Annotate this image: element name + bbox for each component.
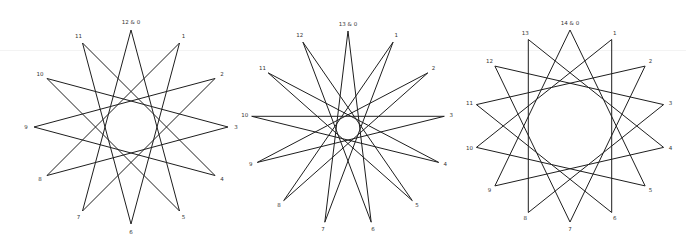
- vertex-label: 5: [415, 202, 419, 208]
- vertex-labels: 14 & 012345678910111213: [466, 20, 673, 232]
- star-outline: [252, 31, 445, 222]
- vertex-label: 2: [649, 58, 653, 64]
- vertex-label: 8: [38, 176, 42, 182]
- star-outline: [34, 30, 228, 224]
- vertex-label-top: 14 & 0: [561, 20, 580, 26]
- vertex-label: 8: [277, 202, 281, 208]
- vertex-label: 3: [234, 124, 238, 130]
- vertex-label: 1: [395, 32, 399, 38]
- star-outline: [476, 30, 663, 222]
- vertex-label: 7: [321, 226, 325, 232]
- vertex-label: 10: [466, 145, 473, 151]
- vertex-label: 6: [129, 229, 133, 235]
- vertex-label: 9: [249, 161, 253, 167]
- vertex-label: 1: [613, 30, 617, 36]
- vertex-label: 12: [296, 32, 303, 38]
- star-polygon-12-point: 12 & 01234567891011: [24, 19, 238, 235]
- vertex-label: 7: [568, 226, 572, 232]
- vertex-label: 2: [432, 65, 436, 71]
- vertex-label: 10: [241, 112, 248, 118]
- vertex-label: 6: [613, 215, 617, 221]
- star-polygon-14-point: 14 & 012345678910111213: [466, 20, 673, 232]
- vertex-label-top: 12 & 0: [122, 19, 141, 25]
- vertex-label: 4: [443, 161, 447, 167]
- vertex-label: 10: [37, 71, 44, 77]
- star-polygon-13-point: 13 & 0123456789101112: [241, 21, 453, 232]
- vertex-label: 4: [669, 145, 673, 151]
- vertex-label: 1: [182, 33, 186, 39]
- vertex-label: 11: [466, 100, 473, 106]
- vertex-label: 3: [449, 112, 453, 118]
- vertex-label: 7: [77, 214, 81, 220]
- vertex-label: 12: [486, 58, 493, 64]
- vertex-label: 4: [220, 176, 224, 182]
- vertex-label: 9: [24, 124, 28, 130]
- vertex-label: 11: [259, 65, 266, 71]
- vertex-label: 3: [669, 100, 673, 106]
- vertex-label: 5: [649, 187, 653, 193]
- vertex-label: 2: [220, 71, 224, 77]
- vertex-label: 11: [75, 33, 82, 39]
- vertex-labels: 12 & 01234567891011: [24, 19, 238, 235]
- star-polygon-diagram: 12 & 01234567891011 13 & 012345678910111…: [0, 0, 686, 248]
- vertex-label: 5: [182, 214, 186, 220]
- vertex-label-top: 13 & 0: [339, 21, 358, 27]
- vertex-label: 13: [522, 30, 529, 36]
- vertex-label: 6: [371, 226, 375, 232]
- vertex-labels: 13 & 0123456789101112: [241, 21, 453, 232]
- vertex-label: 8: [524, 215, 528, 221]
- vertex-label: 9: [488, 187, 492, 193]
